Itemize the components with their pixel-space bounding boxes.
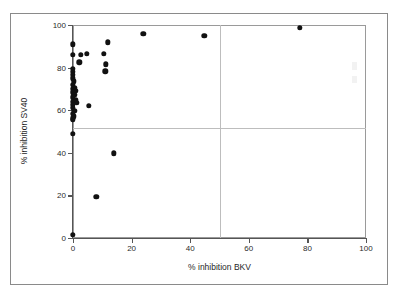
y-tick-label: 80 (57, 63, 66, 72)
y-tick-label: 40 (57, 148, 66, 157)
y-axis-title: % inhibition SV40 (19, 98, 29, 165)
y-tick-mark (68, 25, 73, 26)
x-tick-label: 100 (359, 244, 372, 253)
x-tick-mark (307, 238, 308, 243)
y-tick-label: 20 (57, 191, 66, 200)
x-tick-label: 40 (186, 244, 195, 253)
y-tick-mark (68, 195, 73, 196)
scan-artifact (352, 62, 357, 70)
y-tick-label: 0 (62, 234, 66, 243)
x-tick-label: 60 (244, 244, 253, 253)
plot-area: 020406080100 020406080100 (73, 25, 366, 238)
vertical-reference-line (220, 25, 221, 238)
y-tick-mark (68, 153, 73, 154)
x-axis-title: % inhibition BKV (73, 262, 366, 272)
x-tick-mark (73, 238, 74, 243)
horizontal-reference-line (73, 128, 366, 129)
x-tick-mark (366, 238, 367, 243)
x-tick-mark (132, 238, 133, 243)
scatter-plot-figure: 020406080100 020406080100 % inhibition B… (0, 0, 401, 301)
scan-artifact (352, 76, 357, 83)
x-tick-mark (249, 238, 250, 243)
y-tick-label: 60 (57, 106, 66, 115)
x-tick-label: 0 (71, 244, 75, 253)
y-tick-label: 100 (53, 21, 66, 30)
x-tick-mark (190, 238, 191, 243)
x-tick-label: 20 (127, 244, 136, 253)
x-tick-label: 80 (303, 244, 312, 253)
